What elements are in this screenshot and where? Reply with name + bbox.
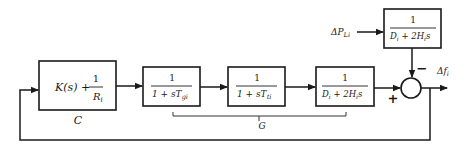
block-diagram: K(s) + 1 Ri C 1 1 + sTgi 1 1 + sTti 1 Di…	[0, 0, 469, 148]
controller-label: C	[74, 114, 83, 127]
summing-junction	[401, 78, 421, 98]
turbine-block: 1 1 + sTti	[228, 67, 285, 106]
load-plant-block: 1 Di + 2His	[384, 9, 441, 48]
group-label: G	[258, 121, 265, 131]
governor-block: 1 1 + sTgi	[143, 67, 200, 106]
svg-text:1: 1	[410, 15, 416, 25]
controller-num: 1	[93, 73, 99, 84]
output-label: Δfi	[436, 66, 449, 78]
svg-text:K(s) +: K(s) +	[54, 81, 90, 94]
plus-sign: +	[388, 91, 399, 106]
svg-text:1: 1	[254, 73, 260, 83]
controller-expr: K(s) +	[54, 81, 90, 94]
plant-block: 1 Di + 2His	[316, 67, 374, 106]
svg-text:1: 1	[342, 73, 348, 83]
minus-sign: −	[417, 61, 428, 76]
group-bracket	[173, 112, 346, 116]
input-label: ΔPLi	[330, 27, 350, 39]
controller-block: K(s) + 1 Ri	[39, 61, 116, 110]
svg-text:1: 1	[169, 73, 175, 83]
